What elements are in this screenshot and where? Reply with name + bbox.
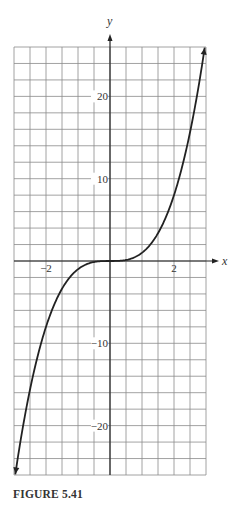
x-axis-arrow-icon <box>212 259 219 264</box>
cubic-function-plot: −222010−10−20 x y <box>0 0 239 514</box>
x-tick-label: −2 <box>40 262 52 274</box>
x-axis-label: x <box>221 254 228 268</box>
y-tick-label: 10 <box>97 173 109 185</box>
x-tick-label: 2 <box>171 262 177 274</box>
y-axis-label: y <box>106 14 113 28</box>
y-tick-label: −20 <box>91 420 109 432</box>
y-tick-label: −10 <box>91 337 109 349</box>
y-tick-label: 20 <box>97 90 109 102</box>
y-axis-arrow-icon <box>108 34 113 41</box>
figure-caption: FIGURE 5.41 <box>13 488 83 500</box>
